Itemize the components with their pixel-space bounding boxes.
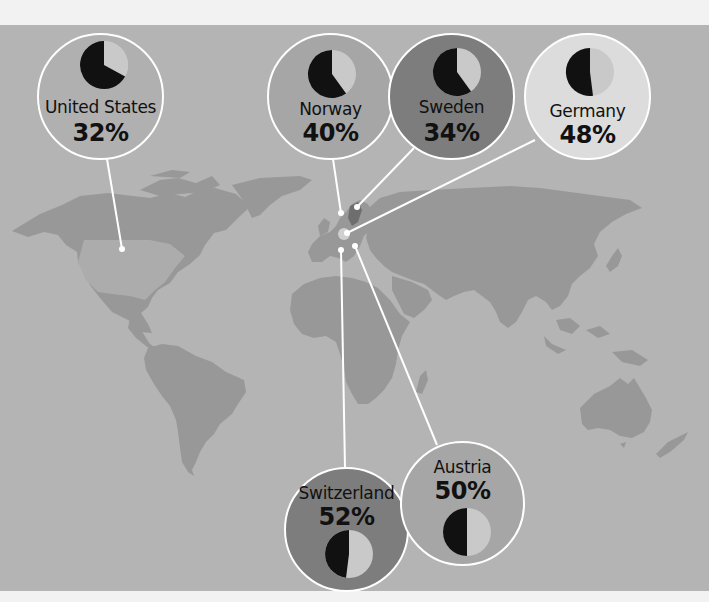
country-name: Switzerland	[286, 483, 407, 503]
country-name: Sweden	[390, 97, 513, 117]
usa-highlight	[78, 240, 185, 300]
country-name: Germany	[526, 101, 649, 121]
pie-chart-icon	[79, 40, 129, 90]
country-name: United States	[39, 97, 162, 117]
bubble-norway: Norway 40%	[267, 33, 394, 160]
country-percent: 32%	[39, 119, 162, 147]
country-percent: 52%	[286, 503, 407, 531]
pie-chart-icon	[324, 529, 374, 579]
australia	[580, 378, 652, 438]
africa	[290, 276, 410, 404]
pie-chart-icon	[442, 507, 492, 557]
country-percent: 34%	[390, 119, 513, 147]
bubble-germany: Germany 48%	[524, 33, 651, 160]
country-percent: 40%	[269, 119, 392, 147]
bubble-united-states: United States 32%	[37, 33, 164, 160]
bubble-austria: Austria 50%	[400, 441, 525, 566]
south-america	[144, 344, 246, 476]
pie-chart-icon	[432, 47, 482, 97]
country-name: Austria	[402, 457, 523, 477]
bubble-switzerland: Switzerland 52%	[284, 467, 409, 592]
bubble-sweden: Sweden 34%	[388, 33, 515, 160]
pie-chart-icon	[307, 49, 357, 99]
country-percent: 48%	[526, 121, 649, 149]
pie-chart-icon	[565, 47, 615, 97]
country-name: Norway	[269, 99, 392, 119]
country-percent: 50%	[402, 477, 523, 505]
